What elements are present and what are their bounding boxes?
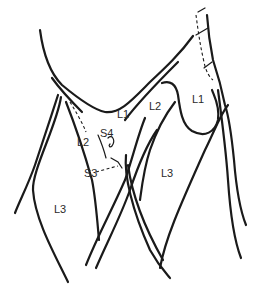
label-l2-right: L2	[149, 101, 161, 112]
s3-arrow	[111, 158, 122, 168]
label-l2-left: L2	[77, 137, 89, 148]
label-l1-left: L1	[117, 109, 129, 120]
label-s3: S3	[84, 168, 97, 179]
label-l3-left: L3	[54, 204, 66, 215]
anatomical-diagram: L1 L1 L2 L2 S4 S3 L3 L3	[0, 0, 261, 295]
s3-dashed	[96, 166, 118, 172]
right-top-tick	[198, 8, 205, 12]
left-line-outer	[15, 95, 58, 213]
right-edge-inner	[218, 90, 241, 258]
label-l1-right: L1	[192, 94, 204, 105]
right-diagonal	[160, 105, 228, 268]
label-s4: S4	[100, 128, 113, 139]
label-l3-right: L3	[161, 168, 173, 179]
diagram-lines	[0, 0, 261, 295]
left-line-inner	[33, 97, 68, 282]
right-edge-outer	[207, 15, 246, 225]
